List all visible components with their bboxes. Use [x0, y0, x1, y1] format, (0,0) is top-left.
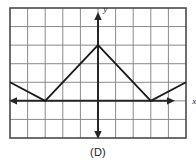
- y-axis-label: y: [102, 4, 107, 14]
- figure-container: x y (D): [0, 0, 196, 165]
- x-axis-label: x: [191, 96, 196, 106]
- graph-plot: x y: [0, 0, 196, 165]
- figure-caption: (D): [0, 146, 196, 159]
